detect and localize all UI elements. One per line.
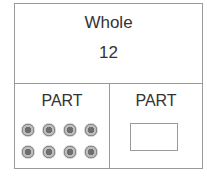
counter-icon [42, 123, 56, 137]
part-label-right: PART [110, 92, 202, 110]
counters-group [21, 123, 105, 159]
counter-icon [84, 123, 98, 137]
part-part-whole-diagram: Whole 12 PART PART [14, 3, 203, 169]
counter-icon [63, 145, 77, 159]
counter-icon [42, 145, 56, 159]
whole-value: 12 [15, 43, 202, 63]
counter-icon [21, 123, 35, 137]
counter-icon [21, 145, 35, 159]
part-label-left: PART [15, 92, 109, 110]
part-section-left: PART [15, 84, 110, 168]
counter-icon [63, 123, 77, 137]
whole-section: Whole 12 [15, 4, 202, 84]
whole-label: Whole [15, 13, 202, 33]
counter-icon [84, 145, 98, 159]
answer-box[interactable] [130, 123, 178, 151]
part-section-right: PART [110, 84, 202, 168]
